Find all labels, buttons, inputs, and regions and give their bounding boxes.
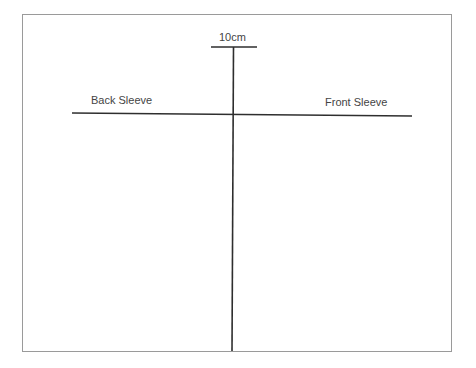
sleeve-horizontal-line [72, 113, 412, 116]
front-sleeve-label: Front Sleeve [325, 96, 387, 108]
center-vertical-line [232, 47, 234, 351]
measure-label: 10cm [219, 31, 246, 43]
sleeve-diagram-lines [0, 0, 476, 368]
back-sleeve-label: Back Sleeve [91, 94, 152, 106]
